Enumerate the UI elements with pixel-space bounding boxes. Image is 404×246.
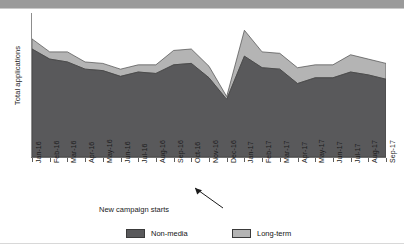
x-axis-label: Jun-16 [124, 141, 131, 163]
legend-swatch-non-media [126, 229, 145, 238]
legend-item-non-media: Non-media [126, 227, 188, 240]
legend-label-long-term: Long-term [257, 229, 291, 238]
x-tick [174, 158, 175, 162]
chart-legend: Non-media Long-term [0, 227, 404, 242]
x-axis-label: Jan-16 [35, 141, 42, 163]
page-top-band [0, 0, 404, 8]
x-axis-label: Mar-16 [70, 141, 77, 163]
x-axis-label: Sep-17 [389, 140, 396, 163]
x-tick [85, 158, 86, 162]
legend-swatch-long-term [232, 229, 251, 238]
x-tick [191, 158, 192, 162]
x-axis-label: Mar-17 [283, 141, 290, 163]
legend-item-long-term: Long-term [232, 227, 291, 240]
x-axis-label: Aug-16 [159, 140, 166, 163]
x-axis-label: Nov-16 [212, 140, 219, 163]
x-tick [138, 158, 139, 162]
y-axis-title: Total applications [13, 28, 22, 124]
x-tick [121, 158, 122, 162]
legend-label-non-media: Non-media [151, 229, 188, 238]
x-tick [315, 158, 316, 162]
x-tick [368, 158, 369, 162]
x-axis-label: Apr-17 [301, 142, 308, 163]
x-axis-label: May-17 [318, 139, 325, 163]
area-series-svg [32, 13, 386, 157]
x-tick [351, 158, 352, 162]
x-tick [280, 158, 281, 162]
x-axis-label: Feb-16 [53, 141, 60, 163]
x-tick [32, 158, 33, 162]
x-tick [156, 158, 157, 162]
x-axis-label: Sep-16 [177, 140, 184, 163]
x-tick [67, 158, 68, 162]
x-tick [298, 158, 299, 162]
x-axis-label: Dec-16 [230, 140, 237, 163]
x-axis-label: Oct-16 [194, 142, 201, 163]
x-tick [244, 158, 245, 162]
x-axis-label: Jun-17 [336, 141, 343, 163]
x-axis-label: May-16 [106, 139, 113, 163]
campaign-annotation-arrow-icon [185, 183, 225, 209]
x-axis-label: Jul-17 [354, 144, 361, 163]
x-tick [50, 158, 51, 162]
x-axis-label: Feb-17 [265, 141, 272, 163]
x-axis-label: Jul-16 [141, 144, 148, 163]
campaign-annotation-label: New campaign starts [99, 205, 169, 214]
page-bottom-rule [0, 243, 404, 244]
x-tick [103, 158, 104, 162]
chart-page: Total applications Jan-16Feb-16Mar-16Apr… [0, 0, 404, 246]
x-tick [386, 158, 387, 162]
x-tick [227, 158, 228, 162]
x-axis-label: Aug-17 [371, 140, 378, 163]
x-axis-label: Apr-16 [88, 142, 95, 163]
x-tick [209, 158, 210, 162]
x-tick [333, 158, 334, 162]
x-axis-label: Jan-17 [247, 141, 254, 163]
plot-area [32, 13, 386, 157]
x-tick [262, 158, 263, 162]
